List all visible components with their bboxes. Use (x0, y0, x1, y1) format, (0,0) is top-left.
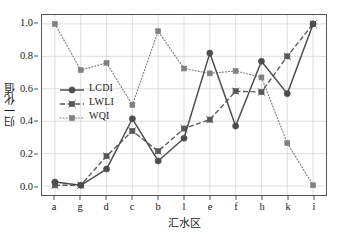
x-tick-label: d (103, 202, 108, 213)
x-axis-title: 汇水区 (41, 214, 327, 230)
legend-label: LWLI (89, 97, 114, 107)
x-tick-label: e (208, 202, 213, 213)
y-tick-label: 1.0 (20, 18, 33, 29)
legend-swatch-lwli-icon (59, 96, 85, 108)
x-tick-mark (106, 196, 107, 200)
x-tick-mark (54, 196, 55, 200)
y-tick-mark (34, 23, 38, 24)
y-tick-mark (34, 88, 38, 89)
y-tick-mark (34, 186, 38, 187)
y-tick-mark (34, 154, 38, 155)
data-point-marker (130, 103, 135, 108)
x-tick-mark (132, 196, 133, 200)
data-point-marker (103, 166, 109, 172)
data-point-marker (207, 50, 213, 56)
x-tick-label: k (285, 202, 290, 213)
y-tick-label: 0.6 (20, 83, 33, 94)
data-point-marker (284, 91, 290, 97)
data-point-marker (52, 179, 58, 185)
data-point-marker (233, 123, 239, 129)
data-point-marker (78, 68, 83, 73)
y-tick-label: 0.2 (20, 149, 33, 160)
data-point-marker (155, 158, 161, 164)
x-tick-mark (184, 196, 185, 200)
chart-figure: 归一化值 0.00.20.40.60.81.0 agdcblefhki 汇水区 … (0, 0, 340, 242)
y-axis-tick-labels: 0.00.20.40.60.81.0 (0, 14, 38, 196)
data-point-marker (52, 21, 57, 26)
x-tick-label: c (130, 202, 135, 213)
data-point-marker (78, 182, 84, 188)
x-tick-mark (158, 196, 159, 200)
data-point-marker (285, 141, 290, 146)
legend-item-lwli[interactable]: LWLI (59, 95, 114, 108)
x-tick-mark (288, 196, 289, 200)
x-tick-mark (314, 196, 315, 200)
data-point-marker (70, 115, 75, 120)
data-point-marker (258, 58, 264, 64)
legend-swatch-wqi-icon (59, 110, 85, 122)
x-tick-label: f (234, 202, 238, 213)
x-tick-mark (210, 196, 211, 200)
x-tick-mark (236, 196, 237, 200)
data-point-marker (207, 71, 212, 76)
data-point-marker (259, 75, 264, 80)
data-point-marker (310, 21, 316, 27)
x-tick-label: i (313, 202, 316, 213)
x-tick-label: b (155, 202, 160, 213)
x-axis-tick-labels: agdcblefhki (41, 196, 327, 214)
y-tick-label: 0.8 (20, 51, 33, 62)
x-tick-label: g (77, 202, 82, 213)
data-point-marker (69, 86, 75, 92)
y-tick-mark (34, 55, 38, 56)
legend-item-lcdi[interactable]: LCDI (59, 81, 114, 94)
data-point-marker (311, 183, 316, 188)
y-tick-label: 0.4 (20, 116, 33, 127)
legend-item-wqi[interactable]: WQI (59, 109, 114, 122)
data-point-marker (129, 116, 135, 122)
y-tick-label: 0.0 (20, 182, 33, 193)
data-point-marker (104, 60, 109, 65)
x-tick-label: h (259, 202, 264, 213)
x-tick-mark (80, 196, 81, 200)
y-tick-mark (34, 121, 38, 122)
data-point-marker (233, 68, 238, 73)
data-point-marker (181, 135, 187, 141)
legend-label: LCDI (89, 83, 113, 93)
chart-legend: LCDILWLIWQI (57, 80, 116, 123)
x-tick-label: a (52, 202, 57, 213)
data-point-marker (182, 66, 187, 71)
x-tick-label: l (183, 202, 186, 213)
x-tick-mark (262, 196, 263, 200)
legend-label: WQI (89, 111, 110, 121)
data-point-marker (156, 29, 161, 34)
legend-swatch-lcdi-icon (59, 82, 85, 94)
